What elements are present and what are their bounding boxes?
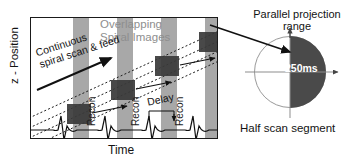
spiral-scan-timing-diagram: Recon Recon Recon Recon Overlapping Spir… — [0, 0, 354, 161]
projection-pointer-arrow — [0, 0, 354, 161]
